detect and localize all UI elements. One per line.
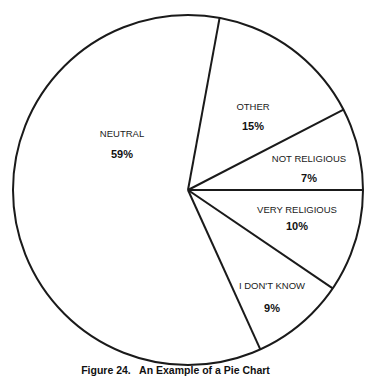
slice-value: 10% xyxy=(286,220,308,232)
slice-value: 59% xyxy=(111,148,133,160)
slice-label: NOT RELIGIOUS xyxy=(272,153,346,164)
slice-value: 15% xyxy=(242,120,264,132)
figure-caption: Figure 24. An Example of a Pie Chart xyxy=(0,364,351,376)
slice-label: I DON'T KNOW xyxy=(239,280,305,291)
slice-label: OTHER xyxy=(236,101,269,112)
slice-label: NEUTRAL xyxy=(100,128,144,139)
slice-value: 9% xyxy=(264,302,280,314)
slice-value: 7% xyxy=(301,172,317,184)
slice-label: VERY RELIGIOUS xyxy=(257,204,337,215)
pie-chart: NEUTRAL 59% OTHER 15% NOT RELIGIOUS 7% V… xyxy=(0,0,373,382)
